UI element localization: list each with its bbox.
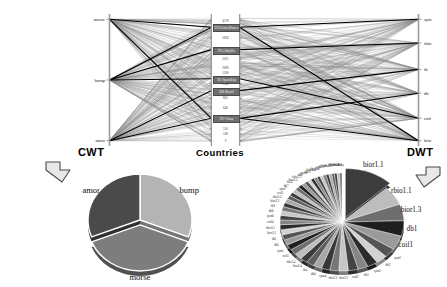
cwt-tick-label: morse [60,17,105,22]
pie-slice-label: morse [130,273,151,282]
cwt-pie-svg [48,162,233,287]
pie-slice-label: sym5 [277,250,284,253]
countries-minor-tick: 180 [213,132,238,136]
dwt-tick-label: bior [424,138,447,143]
pie-slice-label: bior2.2 [339,277,348,280]
axis-title-countries: Countries [196,147,244,158]
pie-slice-label: fk6 [272,238,276,241]
pie-slice-label: coif4 [267,221,273,224]
pie-slice-label: coif3 [282,255,288,258]
pie-slice-label: sym2 [394,257,401,260]
pie-slice-label: bior3.1 [267,232,276,235]
pie-slice-label: rbio2.4 [286,261,295,264]
pcp-line-layer [110,18,419,142]
pie-slice-label: sym4 [319,275,326,278]
pie-slice-label: db3 [364,274,369,277]
axis-title-dwt: DWT [407,146,433,158]
countries-highlighted-label[interactable]: ITA ItalyIta [213,47,240,55]
pie-slice-label: fk14 [287,181,293,184]
pie-slice-label: sym7 [280,188,287,191]
dwt-pie-chart: bior1.1rbio1.1bior1.3db1coif1sym2db2sym3… [238,160,447,287]
pie-slice-label: fk4 [303,269,307,272]
cwt-pie-slices [88,174,192,276]
pie-slice-label: amor [82,186,99,195]
countries-minor-tick: 4578 [213,19,238,23]
cwt-tick-label: bump [60,78,105,83]
pie-slice-label: coif5 [277,192,283,195]
countries-minor-tick: 2690 [213,66,238,70]
countries-minor-tick: 3011 [213,57,238,61]
countries-highlighted-label[interactable]: IN China [213,115,240,123]
countries-minor-tick: 640 [213,106,238,110]
pie-slice-label: db1 [407,226,418,233]
dwt-tick-label: sym [424,17,447,22]
dwt-tick-label: db [424,91,447,96]
dwt-pie-slices [280,168,404,275]
axis-title-cwt: CWT [78,146,104,158]
pie-slice-label: rbio2.2 [328,277,337,280]
countries-highlighted-label[interactable]: ES SpainEsp [213,76,240,84]
figure-canvas: 4578385630112690120010658056403101800US … [0,0,447,287]
countries-minor-tick: 310 [213,127,238,131]
pie-slice-label: fk8 [271,205,275,208]
countries-highlighted-label[interactable]: BR Brazil [213,88,240,96]
pie-slice-label: bior3.3 [270,200,279,203]
cwt-tick-label: amor [60,138,105,143]
parallel-coordinates-plot: 4578385630112690120010658056403101800US … [0,0,447,160]
countries-minor-tick: 0 [213,139,238,143]
pie-slice-label: rbio3.3 [273,196,282,199]
pie-slice-label: bior1.1 [363,162,384,169]
pie-slice-label: rbio1.1 [391,188,412,195]
pie-slice-label: dmey [337,164,344,167]
pie-slice-label: sym3 [374,270,381,273]
cwt-pie-chart: bumpmorseamor [48,162,233,287]
pie-slice-label: rbio3.1 [266,227,275,230]
pie-slice-label: bior1.3 [401,207,422,214]
dwt-tick-label: rbio [424,41,447,46]
dwt-tick-label: coif [424,116,447,121]
countries-highlighted-label[interactable]: US UnitedStates [213,24,240,32]
pie-slice-label: coif2 [352,276,358,279]
pie-slice-label: bump [180,186,199,195]
dwt-tick-label: fk [424,67,447,72]
pie-slice-label: db4 [311,273,316,276]
countries-minor-tick: 805 [213,96,238,100]
pie-slice-label: bior2.4 [293,265,302,268]
pie-slice-label: db6 [269,210,274,213]
pie-slice-label: coif1 [398,242,413,249]
pie-slice-label: db7 [284,185,289,188]
pie-slice-label: db5 [274,244,279,247]
countries-minor-tick: 3856 [213,36,238,40]
pie-slice-label: sym6 [267,215,274,218]
pie-slice-label: db2 [386,264,391,267]
